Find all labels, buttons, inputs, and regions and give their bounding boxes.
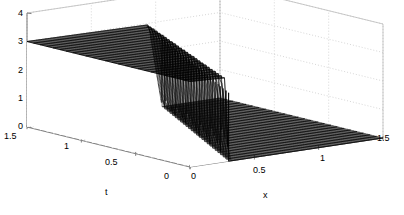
z-tick-label-2: 2 <box>18 66 23 75</box>
plot-canvas <box>0 0 404 215</box>
box-top-rim <box>27 0 383 24</box>
surface-plot-figure: 4 3 2 1 0 1.5 1 0.5 0 0 0.5 1 1.5 t x <box>0 0 404 215</box>
t-tick-label-0-5: 0.5 <box>105 158 118 167</box>
grid-line-horizontal <box>220 70 383 110</box>
t-tick-label-0: 0 <box>164 172 169 181</box>
t-tick-label-1: 1 <box>64 142 69 151</box>
x-axis-title: x <box>263 191 268 200</box>
x-tick-label-1: 1 <box>320 154 325 163</box>
mesh-surface-group <box>27 25 383 167</box>
z-tick-label-1: 1 <box>18 94 23 103</box>
x-tick-label-1-5: 1.5 <box>377 134 390 143</box>
t-tick-label-1-5: 1.5 <box>4 132 17 141</box>
t-axis-title: t <box>105 188 108 197</box>
z-tick-label-4: 4 <box>18 9 23 18</box>
x-tick-label-0-5: 0.5 <box>253 166 266 175</box>
z-tick-label-3: 3 <box>18 37 23 46</box>
z-tick-label-0: 0 <box>18 122 23 131</box>
grid-line-horizontal <box>220 13 383 53</box>
z-axis-tick <box>27 13 32 14</box>
grid-line-horizontal <box>220 41 383 81</box>
x-tick-label-0: 0 <box>191 172 196 181</box>
grid-line-horizontal <box>27 0 220 13</box>
